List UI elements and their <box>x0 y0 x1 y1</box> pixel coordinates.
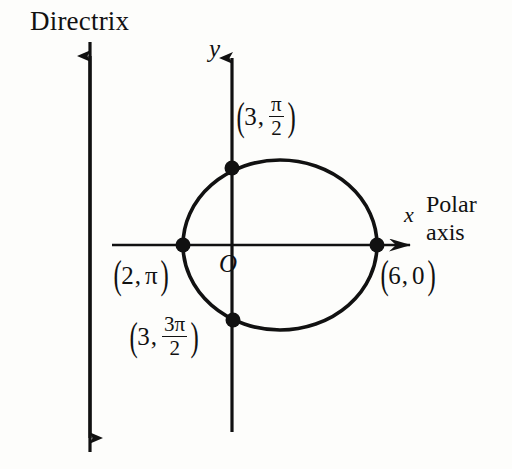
paren-close: ) <box>191 320 199 354</box>
paren-open: ( <box>130 320 138 354</box>
point-top-fraction: π 2 <box>269 94 284 140</box>
y-axis-label: y <box>209 36 220 61</box>
point-label-right: ( 6 , 0 ) <box>378 258 438 292</box>
paren-close: ) <box>287 100 295 134</box>
point-right-r: 6 <box>388 263 401 288</box>
point-bottom-denominator: 2 <box>169 337 180 359</box>
point-top-denominator: 2 <box>271 117 282 139</box>
x-axis-label: x <box>404 204 414 226</box>
point-left-sep: , <box>135 263 141 288</box>
origin-label: O <box>219 251 237 276</box>
paren-close: ) <box>427 258 435 292</box>
point-marker-top <box>225 161 240 176</box>
polar-axis-label-line2: axis <box>426 218 477 246</box>
point-right-theta: 0 <box>412 263 425 288</box>
point-right-sep: , <box>402 263 408 288</box>
point-bottom-r: 3 <box>137 324 150 349</box>
point-left-r: 2 <box>121 263 134 288</box>
polar-axis-label: Polar axis <box>426 190 477 247</box>
polar-axis-label-line1: Polar <box>426 190 477 218</box>
paren-close: ) <box>160 258 168 292</box>
point-top-numerator: π <box>269 94 284 117</box>
paren-open: ( <box>237 100 245 134</box>
point-bottom-sep: , <box>151 324 157 349</box>
point-label-top: ( 3 , π 2 ) <box>234 94 298 140</box>
point-bottom-fraction: 3π 2 <box>162 314 187 360</box>
point-bottom-numerator: 3π <box>162 314 187 337</box>
point-label-bottom: ( 3 , 3π 2 ) <box>127 314 202 360</box>
point-label-left: ( 2 , π ) <box>111 258 171 292</box>
paren-open: ( <box>381 258 389 292</box>
point-top-sep: , <box>258 104 264 129</box>
point-marker-left <box>176 238 191 253</box>
point-left-theta: π <box>145 263 158 288</box>
paren-open: ( <box>114 258 122 292</box>
figure-canvas: Directrix y x Polar axis O ( 6 , 0 ) ( 2… <box>0 0 512 469</box>
point-marker-bottom <box>226 313 241 328</box>
point-top-r: 3 <box>244 104 257 129</box>
point-marker-right <box>370 238 385 253</box>
directrix-label: Directrix <box>30 8 129 35</box>
